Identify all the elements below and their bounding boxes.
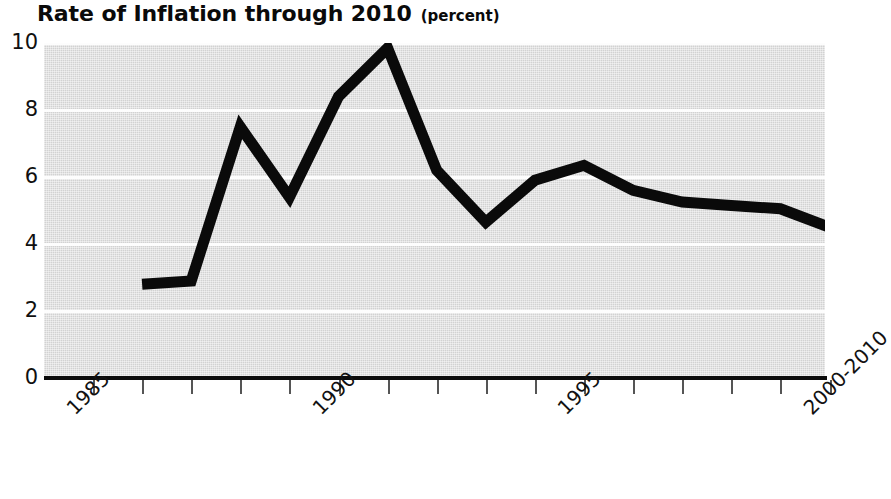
y-axis-label-10: 10 [0,32,38,53]
y-axis-label-0: 0 [0,367,38,388]
x-axis-tick [682,380,684,394]
y-axis-label-6: 6 [0,166,38,187]
y-axis-label-2: 2 [0,300,38,321]
chart-title-unit: (percent) [421,7,500,25]
x-axis-tick [437,380,439,394]
x-axis-tick [731,380,733,394]
x-axis-tick [240,380,242,394]
inflation-line-series [44,43,825,378]
x-axis-tick [780,380,782,394]
y-axis-labels: 1086420 [0,0,38,499]
data-line-path [142,48,825,284]
x-axis-tick [486,380,488,394]
x-axis-tick [633,380,635,394]
plot-area [44,43,825,378]
y-axis-label-4: 4 [0,233,38,254]
chart-title-text: Rate of Inflation through 2010 [37,1,412,26]
x-axis-tick [535,380,537,394]
x-axis-tick [191,380,193,394]
x-axis-tick [388,380,390,394]
chart-title: Rate of Inflation through 2010(percent) [37,1,500,29]
y-axis-label-8: 8 [0,99,38,120]
x-axis-tick [289,380,291,394]
x-axis-tick [142,380,144,394]
x-axis-line [44,376,827,380]
